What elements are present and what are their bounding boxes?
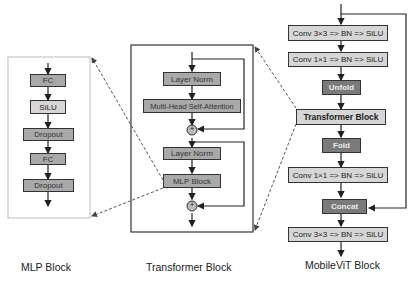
mvit-conv3x3-1: Conv 3×3 => BN => SiLU <box>288 25 388 41</box>
mvit-concat: Concat <box>322 199 367 214</box>
transformer-mlp-block: MLP Block <box>163 174 221 188</box>
mlp-fc-1: FC <box>30 74 66 87</box>
mlp-silu: SiLU <box>30 100 66 114</box>
mlp-dropout-1: Dropout <box>23 128 74 141</box>
caption-mlp-block: MLP Block <box>21 261 71 273</box>
caption-transformer-block: Transformer Block <box>146 261 231 273</box>
mvit-fold: Fold <box>322 138 361 153</box>
caption-mobilevit-block: MobileViT Block <box>305 259 380 271</box>
mlp-fc-2: FC <box>30 153 66 165</box>
transformer-layer-norm-2: Layer Norm <box>163 147 221 160</box>
transformer-mhsa: Multi-Head Self-Attention <box>143 99 241 113</box>
mlp-dropout-2: Dropout <box>23 179 74 192</box>
transformer-layer-norm-1: Layer Norm <box>163 72 221 86</box>
add-icon: + <box>188 200 196 212</box>
mvit-transformer-block: Transformer Block <box>296 109 386 125</box>
mvit-conv1x1-2: Conv 1×1 => BN => SiLU <box>288 167 388 183</box>
mvit-conv3x3-2: Conv 3×3 => BN => SiLU <box>288 227 388 242</box>
mvit-conv1x1-1: Conv 1×1 => BN => SiLU <box>288 52 388 67</box>
add-icon: + <box>188 124 196 136</box>
mvit-unfold: Unfold <box>322 80 361 95</box>
